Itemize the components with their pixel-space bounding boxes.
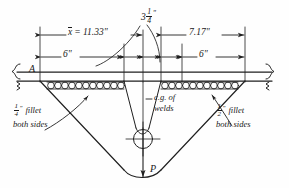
engineering-drawing-figure: x= 11.33" 7.17" 314" 6" 6" A 14"fillet b… [0,0,289,188]
section-mark-a: A [29,63,35,75]
right-fillet-word: fillet [228,105,244,115]
center-gap-fraction: 14 [146,8,152,25]
right-fillet-unit: " [223,104,226,111]
right-fillet-fraction: 12 [217,103,223,118]
right-fillet-denominator: 2 [217,111,223,118]
weld-bead-left [47,82,124,89]
center-gap-whole: 3 [141,12,146,22]
left-fillet-unit: " [20,104,23,111]
note-right-fillet: 12"fillet both sides [216,103,251,130]
break-symbol-right [266,64,274,90]
xbar-symbol: x [68,27,72,38]
cg-line2: welds [154,104,175,114]
cg-line1: c.g. of [154,93,175,103]
center-gap-denominator: 4 [146,17,152,25]
left-fillet-line2: both sides [13,120,48,130]
dimension-right-weld: 6" [199,49,208,60]
note-cg-welds: c.g. of welds [154,93,175,114]
xbar-value: = 11.33" [74,27,107,37]
right-fillet-line2: both sides [216,120,251,130]
dimension-center-gap: 314" [141,8,156,25]
dimension-right-total: 7.17" [189,27,210,38]
left-fillet-denominator: 4 [14,111,20,118]
left-fillet-fraction: 14 [14,103,20,118]
note-left-fillet: 14"fillet both sides [13,103,48,130]
force-label-p: P [150,163,156,175]
weld-bead-right [161,82,238,89]
top-chord [17,72,272,81]
dimension-xbar: x= 11.33" [68,27,108,38]
dimension-left-weld: 6" [63,49,72,60]
center-gap-unit: " [153,9,156,18]
left-fillet-word: fillet [25,105,41,115]
drawing-canvas [0,0,289,188]
break-symbol-left [12,64,20,90]
